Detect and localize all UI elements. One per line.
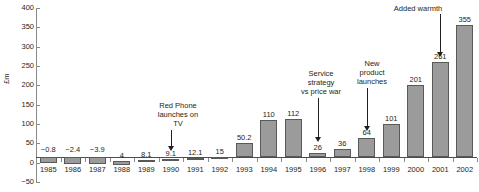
x-tick-label: 1989 bbox=[134, 165, 159, 174]
bar bbox=[40, 157, 57, 163]
y-tick-mark bbox=[36, 85, 40, 86]
annotation-arrow-head bbox=[315, 137, 321, 142]
y-tick-label-text: 150 bbox=[21, 101, 34, 109]
annotation-arrow-stem bbox=[318, 98, 319, 137]
bar-value-label: 12.1 bbox=[183, 148, 208, 157]
y-tick-label: −50 bbox=[8, 178, 34, 186]
bar-chart: £m 400350300250200150100500−50 198519861… bbox=[0, 0, 479, 192]
bar bbox=[187, 158, 204, 160]
annotation-arrow-stem bbox=[440, 14, 441, 52]
y-tick-label-text: 350 bbox=[21, 23, 34, 31]
bar bbox=[309, 153, 326, 157]
x-tick-mark bbox=[85, 158, 86, 162]
chart-annotation: Added warmth bbox=[378, 4, 458, 13]
bar bbox=[383, 124, 400, 157]
y-tick-label: 300 bbox=[8, 43, 34, 51]
y-tick-label-text: 250 bbox=[21, 62, 34, 70]
x-tick-mark bbox=[355, 158, 356, 162]
x-tick-label: 1986 bbox=[61, 165, 86, 174]
bar-value-label: −2.4 bbox=[61, 145, 86, 154]
y-tick-label-text: 400 bbox=[21, 4, 34, 12]
x-tick-label: 1992 bbox=[208, 165, 233, 174]
bar-value-label: 110 bbox=[257, 110, 282, 119]
bar bbox=[334, 149, 351, 157]
x-tick-label: 1994 bbox=[257, 165, 282, 174]
x-tick-mark bbox=[159, 158, 160, 162]
y-tick-mark bbox=[36, 66, 40, 67]
bar bbox=[113, 161, 130, 165]
x-tick-mark bbox=[306, 158, 307, 162]
y-tick-label: 100 bbox=[8, 120, 34, 128]
bar-value-label: 36 bbox=[330, 139, 355, 148]
x-tick-label: 1985 bbox=[36, 165, 61, 174]
x-tick-label: 2001 bbox=[428, 165, 453, 174]
y-axis-line bbox=[36, 8, 37, 182]
x-tick-mark bbox=[477, 158, 478, 162]
bar bbox=[162, 159, 179, 161]
y-tick-label: 400 bbox=[8, 4, 34, 12]
x-tick-mark bbox=[330, 158, 331, 162]
x-tick-mark bbox=[281, 158, 282, 162]
x-tick-mark bbox=[36, 158, 37, 162]
bar bbox=[64, 157, 81, 164]
x-tick-mark bbox=[208, 158, 209, 162]
x-tick-label: 1988 bbox=[110, 165, 135, 174]
bar-value-label: 112 bbox=[281, 109, 306, 118]
x-tick-label: 2000 bbox=[404, 165, 429, 174]
bar-value-label: 101 bbox=[379, 114, 404, 123]
y-tick-mark bbox=[36, 124, 40, 125]
x-tick-mark bbox=[257, 158, 258, 162]
x-tick-mark bbox=[453, 158, 454, 162]
bar-value-label: 50.2 bbox=[232, 133, 257, 142]
annotation-arrow-head bbox=[437, 52, 443, 57]
y-tick-mark bbox=[36, 182, 40, 183]
y-tick-label-text: 300 bbox=[21, 43, 34, 51]
bar-value-label: 26 bbox=[306, 143, 331, 152]
x-tick-mark bbox=[404, 158, 405, 162]
y-tick-label-text: −50 bbox=[21, 178, 34, 186]
y-tick-label: 200 bbox=[8, 81, 34, 89]
y-tick-label: 250 bbox=[8, 62, 34, 70]
bar bbox=[358, 138, 375, 157]
x-tick-mark bbox=[61, 158, 62, 162]
bar bbox=[211, 157, 228, 159]
y-tick-label-text: 50 bbox=[26, 139, 34, 147]
y-tick-mark bbox=[36, 47, 40, 48]
x-tick-label: 1998 bbox=[355, 165, 380, 174]
bar bbox=[432, 62, 449, 157]
x-tick-label: 1987 bbox=[85, 165, 110, 174]
x-tick-mark bbox=[428, 158, 429, 162]
y-tick-label: 50 bbox=[8, 139, 34, 147]
bar-value-label: −3.9 bbox=[85, 145, 110, 154]
bar bbox=[407, 85, 424, 157]
bar-value-label: 355 bbox=[453, 15, 478, 24]
chart-annotation: Red Phone launches on TV bbox=[140, 101, 216, 128]
y-tick-label: 150 bbox=[8, 101, 34, 109]
y-tick-label: 350 bbox=[8, 23, 34, 31]
x-tick-label: 1990 bbox=[159, 165, 184, 174]
x-tick-label: 1995 bbox=[281, 165, 306, 174]
y-tick-mark bbox=[36, 105, 40, 106]
bar-value-label: 15 bbox=[208, 147, 233, 156]
y-tick-mark bbox=[36, 8, 40, 9]
chart-annotation: New product launches bbox=[342, 59, 402, 86]
x-tick-mark bbox=[232, 158, 233, 162]
y-tick-label-text: 0 bbox=[30, 159, 34, 167]
x-tick-label: 1993 bbox=[232, 165, 257, 174]
x-tick-label: 1999 bbox=[379, 165, 404, 174]
x-tick-label: 1996 bbox=[306, 165, 331, 174]
bar bbox=[260, 120, 277, 157]
x-tick-mark bbox=[134, 158, 135, 162]
annotation-arrow-stem bbox=[171, 130, 172, 146]
x-tick-mark bbox=[183, 158, 184, 162]
y-tick-label-text: 100 bbox=[21, 120, 34, 128]
annotation-arrow-head bbox=[168, 146, 174, 151]
bar-value-label: 201 bbox=[404, 75, 429, 84]
annotation-arrow-stem bbox=[367, 88, 368, 126]
annotation-arrow-head bbox=[364, 126, 370, 131]
bar bbox=[236, 143, 253, 157]
bar-value-label: −0.8 bbox=[36, 145, 61, 154]
x-tick-label: 1997 bbox=[330, 165, 355, 174]
bar-value-label: 8.1 bbox=[134, 150, 159, 159]
x-tick-label: 1991 bbox=[183, 165, 208, 174]
